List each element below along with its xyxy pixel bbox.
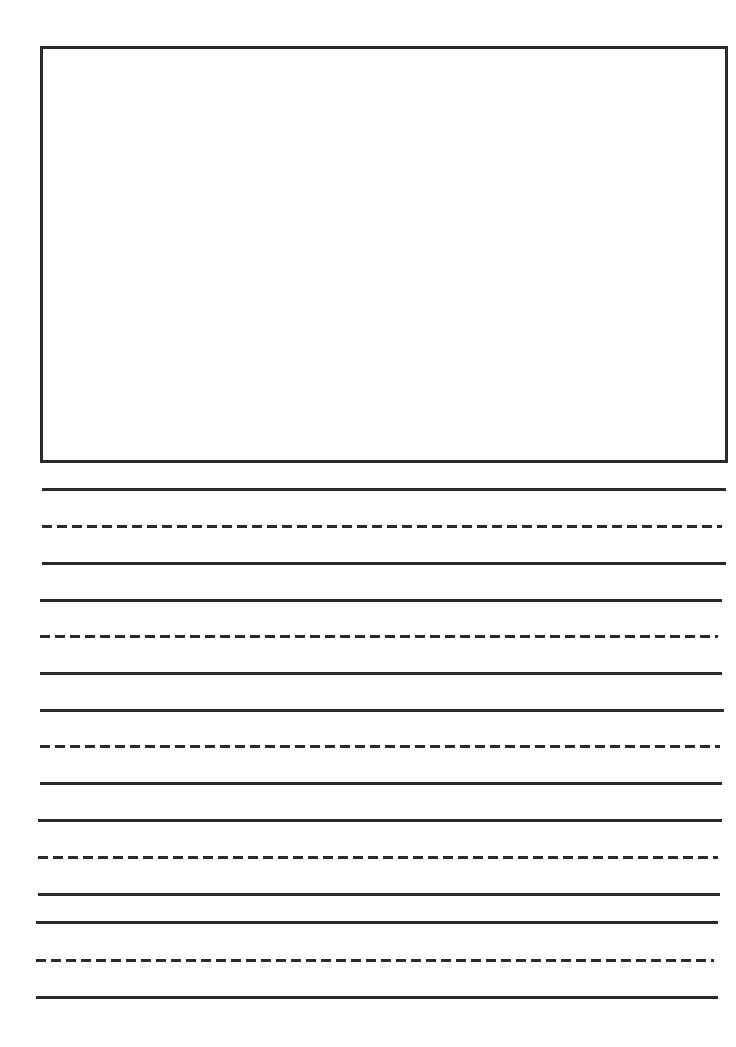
midline-dashed bbox=[38, 856, 718, 859]
writing-line-solid bbox=[42, 562, 726, 565]
midline-dashed bbox=[36, 959, 714, 962]
writing-line-solid bbox=[38, 819, 722, 822]
writing-line-solid bbox=[36, 921, 718, 924]
midline-dashed bbox=[42, 525, 722, 528]
writing-line-solid bbox=[40, 709, 724, 712]
writing-line-solid bbox=[38, 893, 720, 896]
midline-dashed bbox=[40, 635, 718, 638]
writing-line-solid bbox=[40, 672, 722, 675]
writing-line-solid bbox=[40, 599, 722, 602]
writing-line-solid bbox=[42, 488, 726, 491]
writing-line-solid bbox=[40, 782, 722, 785]
drawing-box bbox=[40, 46, 728, 463]
midline-dashed bbox=[40, 745, 720, 748]
writing-line-solid bbox=[36, 996, 718, 999]
